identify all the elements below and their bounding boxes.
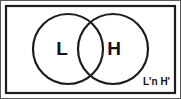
venn-diagram-canvas: L H L'n H' (0, 0, 181, 99)
set-label-H: H (107, 38, 121, 59)
region-label-l-complement-intersect-h-complement: L'n H' (143, 76, 170, 87)
set-label-L: L (56, 38, 68, 59)
venn-diagram-figure: L H L'n H' (0, 0, 181, 99)
